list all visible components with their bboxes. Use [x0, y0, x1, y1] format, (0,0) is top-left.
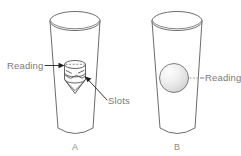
slots-label: Slots	[108, 95, 130, 106]
flow-meter-float-diagram: Reading Slots A Reading B	[0, 0, 241, 156]
tube-a-top-ellipse	[50, 12, 100, 31]
diagram-canvas: Reading Slots A Reading B	[0, 0, 241, 156]
reading-b-label: Reading	[205, 72, 241, 83]
panel-b-group: Reading B	[152, 12, 241, 153]
float-a-top-ellipse	[65, 61, 86, 69]
panel-a-group: Reading Slots A	[7, 12, 130, 153]
panel-a-letter: A	[72, 142, 78, 152]
panel-b-letter: B	[174, 142, 180, 152]
reading-a-label: Reading	[7, 60, 43, 71]
spherical-float	[160, 64, 189, 93]
tube-b-top-ellipse	[152, 12, 202, 31]
